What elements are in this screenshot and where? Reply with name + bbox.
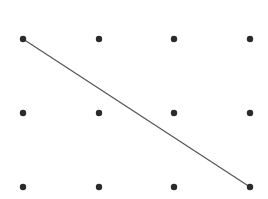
grid-dot-r3-c1 — [20, 184, 26, 190]
grid-dot-r1-c2 — [96, 36, 102, 42]
grid-dot-r3-c3 — [171, 184, 177, 190]
grid-dot-r2-c1 — [20, 110, 26, 116]
grid-dot-r1-c3 — [171, 36, 177, 42]
grid-dot-r1-c4 — [247, 36, 253, 42]
connecting-line-layer — [23, 39, 250, 187]
grid-dot-r3-c2 — [96, 184, 102, 190]
grid-dot-r2-c3 — [171, 110, 177, 116]
grid-dot-r2-c2 — [96, 110, 102, 116]
grid-dot-r2-c4 — [247, 110, 253, 116]
diagonal-line — [23, 39, 250, 187]
dot-grid-diagram — [0, 0, 268, 199]
grid-dot-r1-c1 — [20, 36, 26, 42]
grid-dot-r3-c4 — [247, 184, 253, 190]
